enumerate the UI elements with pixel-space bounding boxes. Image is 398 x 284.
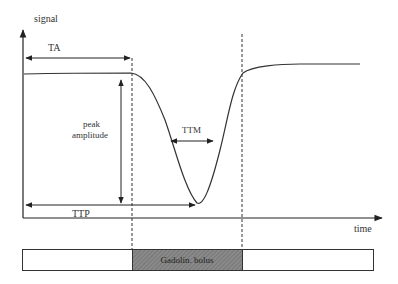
pre-bolus-segment <box>23 250 133 271</box>
bolus-timeline-bar: Gadolin. bolus <box>23 250 374 271</box>
x-axis-label: time <box>354 223 372 234</box>
perfusion-signal-diagram: signal time TA peak amplitude TTM TTP Ga… <box>0 0 398 284</box>
bolus-label: Gadolin. bolus <box>161 255 214 265</box>
peak-amplitude-label-line1: peak <box>83 119 100 129</box>
ta-label: TA <box>48 42 61 53</box>
ttm-label: TTM <box>182 125 201 135</box>
y-axis-label: signal <box>34 13 58 24</box>
ttp-label: TTP <box>72 208 90 219</box>
post-bolus-segment <box>243 250 374 271</box>
peak-amplitude-label-line2: amplitude <box>72 130 108 140</box>
